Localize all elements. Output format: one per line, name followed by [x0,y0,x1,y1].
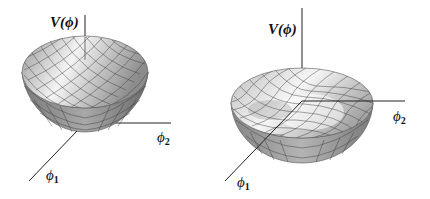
right-phi1-symbol: ϕ [237,174,245,190]
left-panel [22,15,171,181]
right-phi2-symbol: ϕ [393,108,401,124]
right-v-axis-label: V(ϕ) [268,22,297,37]
right-phi1-label: ϕ1 [237,175,250,192]
left-phi1-subscript: 1 [54,174,59,185]
right-phi2-label: ϕ2 [393,109,406,126]
left-phi2-subscript: 2 [165,136,170,147]
right-phi2-subscript: 2 [401,115,406,126]
left-phi2-symbol: ϕ [157,129,165,145]
right-trough-shade [248,100,292,120]
left-phi1-symbol: ϕ [46,167,54,183]
left-v-axis-label: V(ϕ) [50,15,79,30]
right-phi1-subscript: 1 [245,181,250,192]
left-phi2-label: ϕ2 [157,130,170,147]
left-phi1-label: ϕ1 [46,168,59,185]
right-panel [225,8,405,181]
